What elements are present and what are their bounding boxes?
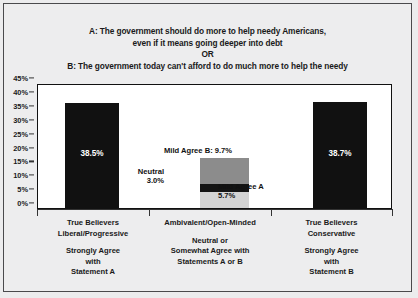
y-tick-label-25: 25% (13, 129, 28, 138)
cat3-line-1: True Believers (306, 218, 358, 227)
label-mild-agree-a-line-2: 5.7% (218, 191, 235, 200)
bar-label-38-7: 38.7% (313, 149, 367, 158)
y-tick-mark-10 (29, 175, 34, 176)
y-tick-mark-25 (29, 133, 34, 134)
y-tick-mark-45 (29, 77, 34, 78)
cat1-line-2: Liberal/Progressive (58, 229, 129, 238)
x-tick-2 (271, 209, 272, 216)
label-mild-agree-a: Mild Agree A 5.7% (218, 182, 264, 200)
y-tick-mark-30 (29, 119, 34, 120)
bar-label-38-5: 38.5% (65, 149, 119, 158)
y-tick-mark-35 (29, 105, 34, 106)
y-tick-label-30: 30% (13, 115, 28, 124)
title-line-1: A: The government should do more to help… (4, 26, 411, 38)
x-axis-line (37, 209, 393, 210)
y-tick-label-35: 35% (13, 101, 28, 110)
cat2-line-5: Statements A or B (177, 257, 242, 266)
cat1-line-5: Statement A (71, 267, 115, 276)
label-mild-agree-b: Mild Agree B: 9.7% (164, 146, 232, 155)
y-tick-label-45: 45% (13, 74, 28, 83)
y-tick-label-0: 0% (17, 199, 28, 208)
cat3-line-4: with (324, 257, 339, 266)
y-tick-label-20: 20% (13, 143, 28, 152)
title-line-2: even if it means going deeper into debt (4, 38, 411, 50)
cat2-line-4: Somewhat Agree with (171, 246, 250, 255)
y-tick-label-5: 5% (17, 185, 28, 194)
category-label-conservative: True Believers Conservative Strongly Agr… (271, 218, 392, 278)
y-tick-mark-5 (29, 189, 34, 190)
label-neutral: Neutral 3.0% (114, 167, 164, 185)
y-tick-mark-40 (29, 91, 34, 92)
y-tick-label-15: 15% (13, 157, 28, 166)
bar-true-believers-liberal[interactable]: 38.5% (65, 103, 119, 208)
cat1-line-3: Strongly Agree (66, 246, 120, 255)
y-axis: 45% 40% 35% 30% 25% 20% 15% 10% 5% 0% (4, 78, 34, 215)
x-tick-3 (392, 209, 393, 216)
y-tick-label-40: 40% (13, 87, 28, 96)
label-mild-agree-a-line-1: Mild Agree A (218, 182, 264, 191)
title-line-4: B: The government today can't afford to … (4, 61, 411, 73)
category-label-ambivalent: Ambivalent/Open-Minded Neutral or Somewh… (149, 218, 271, 267)
y-tick-mark-15 (29, 161, 34, 162)
cat2-line-3: Neutral or (192, 236, 228, 245)
cat3-line-3: Strongly Agree (304, 246, 358, 255)
y-tick-label-10: 10% (13, 171, 28, 180)
label-neutral-line-1: Neutral (138, 167, 164, 176)
label-neutral-line-2: 3.0% (147, 176, 164, 185)
cat3-line-5: Statement B (309, 267, 353, 276)
segment-mild-agree-b[interactable] (200, 158, 249, 185)
chart-title: A: The government should do more to help… (4, 26, 411, 72)
x-tick-0 (37, 209, 38, 216)
y-tick-mark-20 (29, 147, 34, 148)
cat1-line-1: True Believers (67, 218, 119, 227)
cat3-line-2: Conservative (308, 229, 356, 238)
x-tick-1 (149, 209, 150, 216)
bar-true-believers-conservative[interactable]: 38.7% (313, 102, 367, 208)
cat2-line-1: Ambivalent/Open-Minded (164, 218, 256, 227)
cat1-line-4: with (85, 257, 100, 266)
category-label-liberal: True Believers Liberal/Progressive Stron… (37, 218, 149, 278)
chart-frame: A: The government should do more to help… (3, 3, 412, 292)
y-tick-mark-0 (29, 203, 34, 204)
title-line-3: OR (4, 49, 411, 61)
